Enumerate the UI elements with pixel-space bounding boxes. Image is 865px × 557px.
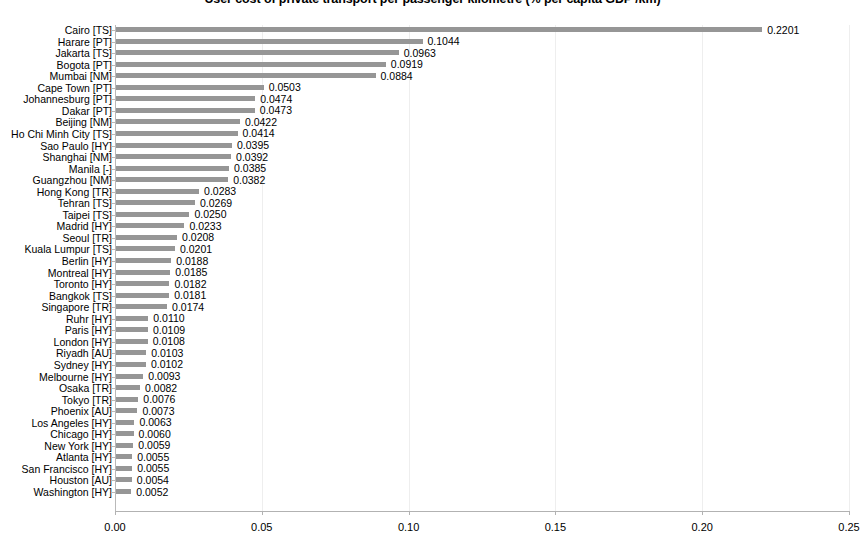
y-axis-tick (111, 330, 115, 331)
bar-row: London [HY]0.0108 (0, 337, 865, 349)
category-label: Taipei [TS] (0, 210, 112, 221)
y-axis-tick (111, 157, 115, 158)
bar-value-label: 0.1044 (428, 36, 460, 47)
y-axis-tick (111, 122, 115, 123)
y-axis-tick (111, 469, 115, 470)
y-axis-tick (111, 111, 115, 112)
y-axis-tick (111, 365, 115, 366)
bar (116, 489, 131, 494)
bar-value-label: 0.0108 (153, 336, 185, 347)
bar (116, 408, 137, 413)
category-label: London [HY] (0, 337, 112, 348)
bar (116, 154, 231, 159)
x-axis-tick (262, 511, 263, 515)
bar (116, 235, 177, 240)
bar-row: Tokyo [TR]0.0076 (0, 395, 865, 407)
bar-value-label: 0.0174 (172, 302, 204, 313)
bar-row: Dakar [PT]0.0473 (0, 106, 865, 118)
bar-value-label: 0.0208 (182, 232, 214, 243)
x-axis-tick-label: 0.00 (85, 521, 145, 533)
bar-row: Los Angeles [HY]0.0063 (0, 418, 865, 430)
x-axis-tick (115, 511, 116, 515)
bar (116, 420, 134, 425)
bar (116, 477, 132, 482)
x-axis-tick (849, 511, 850, 515)
x-axis-line (115, 511, 850, 512)
bar-row: New York [HY]0.0059 (0, 441, 865, 453)
bar-row: Atlanta [HY]0.0055 (0, 452, 865, 464)
category-label: Singapore [TR] (0, 302, 112, 313)
bar-value-label: 0.0474 (260, 94, 292, 105)
bar (116, 385, 140, 390)
category-label: New York [HY] (0, 441, 112, 452)
y-axis-tick (111, 457, 115, 458)
category-label: Riyadh [AU] (0, 348, 112, 359)
category-label: Manila [-] (0, 164, 112, 175)
category-label: Toronto [HY] (0, 279, 112, 290)
y-axis-tick (111, 480, 115, 481)
category-label: San Francisco [HY] (0, 464, 112, 475)
bar-row: Bogota [PT]0.0919 (0, 60, 865, 72)
bar (116, 374, 143, 379)
category-label: Beijing [NM] (0, 117, 112, 128)
bar (116, 62, 386, 67)
category-label: Kuala Lumpur [TS] (0, 244, 112, 255)
bar-value-label: 0.0102 (151, 359, 183, 370)
bar-value-label: 0.0382 (233, 175, 265, 186)
category-label: Los Angeles [HY] (0, 418, 112, 429)
bar-row: Johannesburg [PT]0.0474 (0, 94, 865, 106)
category-label: Tokyo [TR] (0, 395, 112, 406)
x-axis-tick-label: 0.05 (232, 521, 292, 533)
y-axis-tick (111, 76, 115, 77)
y-axis-tick (111, 342, 115, 343)
category-label: Osaka [TR] (0, 383, 112, 394)
category-label: Shanghai [NM] (0, 152, 112, 163)
bar (116, 108, 255, 113)
bar-row: Taipei [TS]0.0250 (0, 210, 865, 222)
category-label: Sao Paulo [HY] (0, 141, 112, 152)
category-label: Atlanta [HY] (0, 452, 112, 463)
category-label: Houston [AU] (0, 475, 112, 486)
bar (116, 304, 167, 309)
bar-value-label: 0.0188 (176, 256, 208, 267)
bar-row: Berlin [HY]0.0188 (0, 256, 865, 268)
y-axis-tick (111, 492, 115, 493)
category-label: Chicago [HY] (0, 429, 112, 440)
category-label: Hong Kong [TR] (0, 187, 112, 198)
bar-value-label: 0.0059 (138, 440, 170, 451)
y-axis-tick (111, 284, 115, 285)
bar-row: Cape Town [PT]0.0503 (0, 83, 865, 95)
y-axis-tick (111, 192, 115, 193)
bar (116, 39, 423, 44)
bar-row: Melbourne [HY]0.0093 (0, 372, 865, 384)
y-axis-tick (111, 411, 115, 412)
bar-row: Phoenix [AU]0.0073 (0, 406, 865, 418)
bar (116, 119, 240, 124)
bar-value-label: 0.0919 (391, 59, 423, 70)
bar-value-label: 0.0109 (153, 325, 185, 336)
category-label: Ruhr [HY] (0, 314, 112, 325)
x-axis-tick (555, 511, 556, 515)
bar (116, 166, 229, 171)
bar-value-label: 0.0055 (137, 452, 169, 463)
bar-value-label: 0.0185 (175, 267, 207, 278)
y-axis-tick (111, 353, 115, 354)
bar-row: Bangkok [TS]0.0181 (0, 291, 865, 303)
category-label: Paris [HY] (0, 325, 112, 336)
bar-value-label: 0.0503 (269, 82, 301, 93)
bar-row: Tehran [TS]0.0269 (0, 198, 865, 210)
bar (116, 454, 132, 459)
y-axis-tick (111, 169, 115, 170)
y-axis-tick (111, 215, 115, 216)
bar-row: Sao Paulo [HY]0.0395 (0, 141, 865, 153)
x-axis-tick-label: 0.15 (525, 521, 585, 533)
x-axis-tick-label: 0.25 (819, 521, 865, 533)
y-axis-tick (111, 377, 115, 378)
bar-row: Seoul [TR]0.0208 (0, 233, 865, 245)
bar (116, 327, 148, 332)
bar-value-label: 0.0473 (260, 105, 292, 116)
y-axis-tick (111, 423, 115, 424)
y-axis-tick (111, 307, 115, 308)
bar-row: Mumbai [NM]0.0884 (0, 71, 865, 83)
bar-row: Ruhr [HY]0.0110 (0, 314, 865, 326)
